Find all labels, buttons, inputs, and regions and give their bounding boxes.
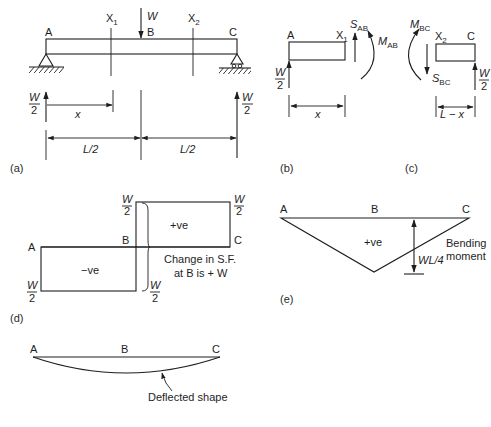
point-a-label: A — [30, 343, 38, 355]
segment-ab — [289, 42, 345, 60]
bending-label-1: Bending — [446, 237, 486, 249]
shear-label: SBC — [432, 72, 451, 87]
svg-text:W: W — [479, 67, 491, 79]
svg-text:2: 2 — [29, 292, 35, 304]
svg-text:W: W — [27, 279, 39, 291]
bottom-left-value: W 2 — [27, 279, 39, 304]
panel-c-free-body-right: X2 C MBC SBC W 2 L − x (c) — [405, 18, 491, 174]
point-c-label: C — [212, 343, 220, 355]
moment-arrow-icon — [408, 29, 421, 80]
svg-text:W: W — [29, 91, 41, 103]
svg-text:2: 2 — [236, 205, 242, 217]
negative-label: −ve — [81, 264, 99, 276]
panel-deflected-shape: A B C Deflected shape — [30, 343, 228, 403]
svg-text:W: W — [275, 66, 287, 78]
panel-d-shear-force-diagram: A B C +ve −ve W 2 W 2 W 2 W 2 Change in … — [10, 193, 246, 324]
dim-left-half-label: L/2 — [83, 143, 98, 155]
note-line-1: Change in S.F. — [164, 253, 236, 265]
panel-b-free-body-left: A X1 W 2 SAB MAB x (b) — [275, 18, 398, 174]
load-label: W — [147, 10, 159, 22]
svg-text:2: 2 — [481, 80, 487, 92]
svg-text:2: 2 — [31, 104, 37, 116]
positive-label: +ve — [170, 219, 188, 231]
point-b-label: B — [122, 234, 129, 246]
moment-arrow-icon — [361, 31, 374, 79]
note-line-2: at B is + W — [174, 267, 228, 279]
roller-support-icon — [219, 54, 251, 74]
top-right-value: W 2 — [234, 193, 246, 217]
point-c-label: C — [234, 234, 242, 246]
panel-a-beam-loading: W A B C X1 X2 W 2 W 2 x L/2 L/2 (a) — [10, 8, 254, 174]
pin-support-icon — [29, 54, 64, 73]
reaction-value: W 2 — [479, 67, 491, 92]
point-b-label: B — [371, 203, 378, 215]
point-a-label: A — [28, 241, 36, 253]
svg-text:W: W — [150, 279, 162, 291]
label-c: C — [467, 30, 475, 42]
segment-bc — [436, 44, 475, 61]
point-a-label: A — [280, 203, 288, 215]
reaction-value: W 2 — [275, 66, 287, 91]
moment-label: MAB — [378, 35, 398, 50]
dim-right-half-label: L/2 — [180, 143, 195, 155]
pointer-arrow-icon — [162, 373, 172, 391]
caption-a: (a) — [10, 162, 23, 174]
svg-text:W: W — [242, 91, 254, 103]
deflected-curve — [33, 357, 220, 373]
bending-label-2: moment — [446, 250, 486, 262]
moment-label: MBC — [410, 18, 431, 33]
point-c-label: C — [229, 26, 237, 38]
caption-d: (d) — [10, 312, 23, 324]
deflected-shape-label: Deflected shape — [148, 391, 228, 403]
svg-text:W: W — [234, 193, 246, 205]
shear-label: SAB — [350, 18, 368, 33]
svg-text:2: 2 — [152, 292, 158, 304]
point-c-label: C — [462, 203, 470, 215]
dim-x-label: x — [74, 108, 81, 120]
section-x1-label: X1 — [106, 12, 118, 27]
point-a-label: A — [45, 26, 53, 38]
bottom-mid-value: W 2 — [150, 279, 162, 304]
svg-text:2: 2 — [124, 205, 130, 217]
point-b-label: B — [121, 343, 128, 355]
caption-e: (e) — [280, 293, 293, 305]
beam — [46, 39, 237, 54]
max-moment-label: WL/4 — [418, 254, 444, 266]
caption-b: (b) — [280, 162, 293, 174]
svg-text:2: 2 — [244, 104, 250, 116]
panel-e-bending-moment-diagram: A B C +ve WL/4 Bending moment (e) — [280, 203, 486, 305]
svg-text:2: 2 — [277, 79, 283, 91]
svg-text:W: W — [122, 193, 134, 205]
top-left-value: W 2 — [122, 193, 134, 217]
dim-l-minus-x-label: L − x — [440, 108, 464, 120]
beam-diagram-figure: W A B C X1 X2 W 2 W 2 x L/2 L/2 (a) — [0, 0, 491, 427]
point-b-label: B — [147, 26, 154, 38]
dim-x-label: x — [314, 108, 321, 120]
label-a: A — [287, 29, 295, 41]
caption-c: (c) — [405, 162, 418, 174]
section-x2-label: X2 — [188, 12, 200, 27]
sign-label: +ve — [364, 236, 382, 248]
label-x2: X2 — [435, 30, 447, 45]
left-reaction-value: W 2 — [29, 91, 41, 116]
right-reaction-value: W 2 — [242, 91, 254, 116]
